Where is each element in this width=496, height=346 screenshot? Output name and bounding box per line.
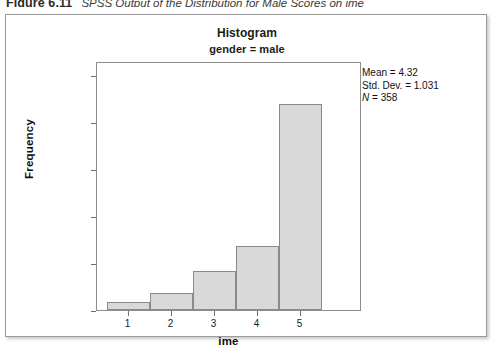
figure-caption: Figure 6.11SPSS Output of the Distributi… xyxy=(6,0,486,7)
y-tick-mark xyxy=(91,311,96,312)
x-axis-title: ime xyxy=(96,335,361,346)
statistics-annotation: Mean = 4.32 Std. Dev. = 1.031 N = 358 xyxy=(362,67,484,105)
x-tick-mark xyxy=(214,311,215,316)
histogram-bar xyxy=(193,271,236,310)
x-tick-mark xyxy=(171,311,172,316)
figure-caption-label: Figure 6.11 xyxy=(6,0,72,7)
figure-caption-text: SPSS Output of the Distribution for Male… xyxy=(81,0,364,7)
chart-card: Histogram gender = male Mean = 4.32 Std.… xyxy=(5,14,487,337)
histogram-bar xyxy=(150,293,193,310)
plot-area xyxy=(96,62,361,311)
x-tick-label: 4 xyxy=(245,318,269,329)
y-axis-title: Frequency xyxy=(23,104,35,194)
x-tick-label: 1 xyxy=(116,318,140,329)
stat-n-value: = 358 xyxy=(369,92,397,103)
stat-mean: Mean = 4.32 xyxy=(362,67,484,80)
stat-std-dev: Std. Dev. = 1.031 xyxy=(362,80,484,93)
x-tick-mark xyxy=(257,311,258,316)
histogram-bar xyxy=(236,246,279,310)
x-tick-label: 2 xyxy=(159,318,183,329)
y-axis: 050100150200250 xyxy=(6,15,96,325)
x-tick-label: 5 xyxy=(288,318,312,329)
x-tick-mark xyxy=(128,311,129,316)
x-tick-mark xyxy=(300,311,301,316)
x-tick-label: 3 xyxy=(202,318,226,329)
histogram-bar xyxy=(107,302,150,310)
histogram-bar xyxy=(279,104,322,310)
bar-series xyxy=(97,63,360,310)
stat-n: N = 358 xyxy=(362,92,484,105)
